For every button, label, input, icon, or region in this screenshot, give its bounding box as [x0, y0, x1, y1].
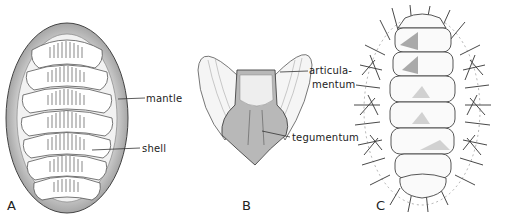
panel-c: C: [340, 0, 505, 220]
chiton-illustration-a: [0, 0, 170, 220]
panel-letter-a: A: [7, 198, 16, 213]
shell-plate-illustration: [180, 0, 350, 220]
panel-letter-b: B: [242, 198, 251, 213]
label-mantle: mantle: [146, 93, 182, 104]
panel-b: articula- mentum tegumentum B: [180, 0, 350, 220]
spiny-chiton-illustration: [340, 0, 505, 220]
panel-letter-c: C: [376, 198, 385, 213]
panel-a: mantle shell A: [0, 0, 170, 220]
label-shell: shell: [142, 143, 166, 154]
